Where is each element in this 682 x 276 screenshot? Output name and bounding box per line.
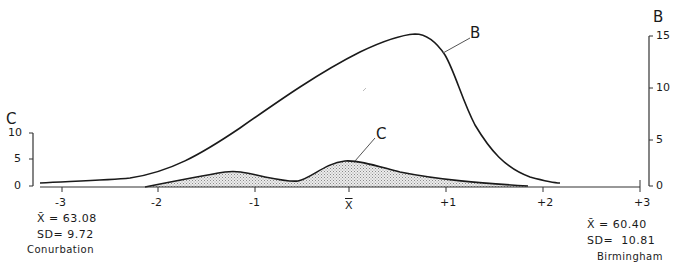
chart-canvas bbox=[0, 0, 682, 276]
conurbation-sd: SD= 9.72 bbox=[37, 228, 94, 241]
left-tick-5: 5 bbox=[14, 152, 21, 165]
birmingham-name: Birmingham bbox=[597, 251, 663, 262]
right-axis-label: B bbox=[653, 8, 663, 26]
curve-c-area bbox=[145, 161, 528, 187]
curve-b-leader bbox=[443, 38, 470, 53]
right-tick-0: 0 bbox=[656, 179, 663, 192]
curve-c-label: C bbox=[376, 125, 386, 143]
left-tick-0: 0 bbox=[14, 179, 21, 192]
x-tick-plus3: +3 bbox=[634, 196, 650, 209]
curve-b-label: B bbox=[470, 24, 480, 42]
conurbation-mean: X̄ = 63.08 bbox=[37, 212, 97, 225]
birmingham-sd: SD= 10.81 bbox=[587, 234, 655, 247]
left-tick-10: 10 bbox=[8, 126, 22, 139]
x-tick-mean: X bbox=[345, 199, 353, 212]
x-tick-plus1: +1 bbox=[440, 196, 456, 209]
curve-c-leader bbox=[355, 138, 375, 161]
right-tick-5: 5 bbox=[656, 133, 663, 146]
stray-mark bbox=[363, 88, 366, 91]
x-tick-plus2: +2 bbox=[537, 196, 553, 209]
x-tick-minus1: -1 bbox=[249, 196, 260, 209]
right-tick-10: 10 bbox=[656, 81, 670, 94]
right-tick-15: 15 bbox=[656, 29, 670, 42]
conurbation-name: Conurbation bbox=[27, 244, 94, 255]
birmingham-mean: X̄ = 60.40 bbox=[587, 218, 647, 231]
x-tick-minus2: -2 bbox=[151, 196, 162, 209]
curve-b-line bbox=[40, 34, 560, 183]
x-tick-minus3: -3 bbox=[55, 196, 66, 209]
